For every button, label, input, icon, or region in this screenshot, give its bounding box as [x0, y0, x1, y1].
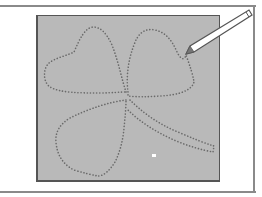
- clover-drawing: [0, 0, 262, 197]
- clover-left-leaf: [44, 27, 126, 93]
- illustration-scene: [0, 0, 262, 197]
- clover-bottom-leaf: [56, 100, 126, 176]
- clover-top-right-leaf: [127, 30, 194, 97]
- clover-stem: [128, 100, 214, 152]
- pencil-icon: [186, 10, 252, 54]
- white-dot: [152, 154, 156, 157]
